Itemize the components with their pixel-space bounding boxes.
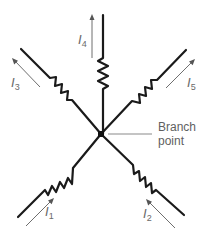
- current-arrow-i2: [149, 202, 175, 228]
- circuit-diagram: [0, 0, 209, 236]
- branch-point-label-line1: Branch: [158, 120, 196, 134]
- branch-top: [90, 14, 109, 134]
- label-i1: I1: [45, 205, 54, 221]
- label-i2: I2: [143, 207, 152, 223]
- branch-point-label-line2: point: [158, 134, 196, 148]
- resistor-upper-left: [21, 49, 101, 134]
- label-i5: I5: [187, 76, 196, 92]
- resistor-top: [98, 15, 108, 134]
- arrowhead-i4: [90, 14, 95, 20]
- resistor-lower-left: [18, 134, 101, 217]
- branch-upper-left: [12, 49, 101, 134]
- label-i4: I4: [78, 33, 87, 49]
- branch-point-node: [98, 131, 104, 137]
- branch-point-label: Branch point: [158, 120, 196, 148]
- label-i3: I3: [11, 76, 20, 92]
- branch-lower-left: [18, 134, 101, 226]
